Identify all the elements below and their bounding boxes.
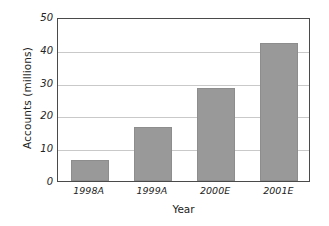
y-tick-label: 10 xyxy=(19,144,53,154)
y-tick-label: 0 xyxy=(19,177,53,187)
x-axis-tick-labels: 1998A1999A2000E2001E xyxy=(57,185,310,199)
x-tick-label: 1999A xyxy=(120,185,183,196)
bar-chart-figure: Accounts (millions) 01020304050 1998A199… xyxy=(0,0,329,226)
x-axis-title: Year xyxy=(57,203,310,215)
x-tick-label: 2000E xyxy=(184,185,247,196)
bar-series xyxy=(58,19,309,181)
bar xyxy=(71,160,109,181)
plot-area xyxy=(57,18,310,182)
x-tick-label: 1998A xyxy=(57,185,120,196)
bar xyxy=(197,88,235,181)
bar xyxy=(260,43,298,181)
y-axis-tick-labels: 01020304050 xyxy=(17,18,53,182)
y-tick-label: 20 xyxy=(19,111,53,121)
y-tick-label: 40 xyxy=(19,46,53,56)
y-tick-label: 30 xyxy=(19,79,53,89)
bar xyxy=(134,127,172,181)
y-tick-label: 50 xyxy=(19,13,53,23)
x-tick-label: 2001E xyxy=(247,185,310,196)
